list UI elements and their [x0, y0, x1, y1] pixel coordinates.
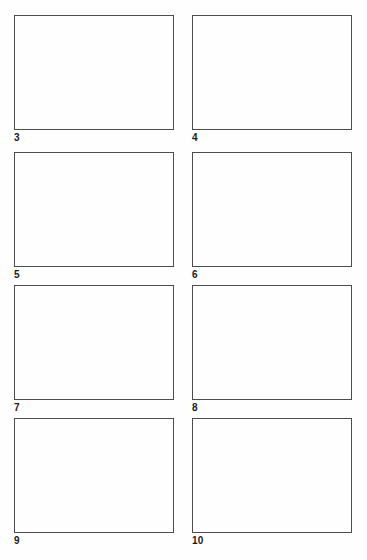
- panel-frame[interactable]: [192, 15, 352, 130]
- storyboard-panel-4[interactable]: 4: [192, 15, 352, 142]
- panel-frame[interactable]: [14, 152, 174, 267]
- panel-number-label: 9: [14, 535, 20, 546]
- panel-frame[interactable]: [14, 15, 174, 130]
- panel-number-label: 7: [14, 402, 20, 413]
- panel-number-label: 6: [192, 269, 198, 280]
- panel-number-label: 8: [192, 402, 198, 413]
- panel-grid: 3 4 5 6 7 8 9 10: [14, 15, 352, 545]
- storyboard-panel-9[interactable]: 9: [14, 418, 174, 545]
- storyboard-panel-8[interactable]: 8: [192, 285, 352, 412]
- panel-frame[interactable]: [14, 285, 174, 400]
- storyboard-panel-5[interactable]: 5: [14, 152, 174, 279]
- panel-number-label: 4: [192, 132, 198, 143]
- storyboard-panel-6[interactable]: 6: [192, 152, 352, 279]
- panel-number-label: 10: [192, 535, 203, 546]
- panel-frame[interactable]: [14, 418, 174, 533]
- panel-frame[interactable]: [192, 418, 352, 533]
- panel-number-label: 3: [14, 132, 20, 143]
- panel-frame[interactable]: [192, 285, 352, 400]
- storyboard-panel-10[interactable]: 10: [192, 418, 352, 545]
- panel-frame[interactable]: [192, 152, 352, 267]
- storyboard-panel-7[interactable]: 7: [14, 285, 174, 412]
- panel-number-label: 5: [14, 269, 20, 280]
- storyboard-panel-3[interactable]: 3: [14, 15, 174, 142]
- storyboard-sheet: 3 4 5 6 7 8 9 10: [0, 0, 367, 560]
